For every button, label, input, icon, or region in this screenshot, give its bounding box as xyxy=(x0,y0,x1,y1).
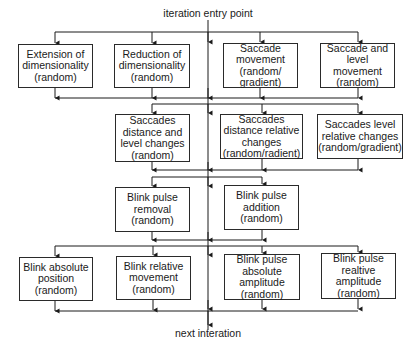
stage-4-process-box: Blink relative movement (random) xyxy=(116,256,191,300)
stage-2-process-box: Saccades distance and level changes (ran… xyxy=(115,114,190,162)
stage-2-process-box: Saccades level relative changes (random/… xyxy=(317,114,403,159)
stage-4-process-box: Blink pulse realtive amplitude (random) xyxy=(321,253,396,299)
entry-point-label: iteration entry point xyxy=(163,7,252,19)
stage-1-process-box: Saccade movement (random/ gradient) xyxy=(223,43,298,88)
stage-1-process-box: Extension of dimensionality (random) xyxy=(18,44,93,88)
stage-1-process-box: Saccade and level movement (random) xyxy=(320,43,395,88)
stage-3-process-box: Blink pulse addition (random) xyxy=(224,185,299,230)
next-iteration-label: next interation xyxy=(175,327,241,339)
stage-4-process-box: Blink pulse absolute amplitude (random) xyxy=(224,254,300,300)
stage-3-process-box: Blink pulse removal (random) xyxy=(115,187,190,232)
stage-1-process-box: Reduction of dimensionality (random) xyxy=(114,44,190,88)
stage-2-process-box: Saccades distance relative changes (rand… xyxy=(220,114,303,159)
stage-4-process-box: Blink absolute position (random) xyxy=(19,257,93,301)
